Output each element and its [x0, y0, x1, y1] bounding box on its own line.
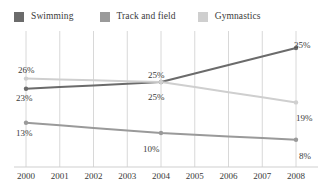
legend-swatch-track-and-field — [100, 12, 110, 22]
chart-legend: Swimming Track and field Gymnastics — [0, 8, 326, 26]
data-point-track-and-field-2008 — [294, 138, 298, 142]
x-tick-label-2004: 2004 — [152, 172, 170, 181]
legend-swatch-gymnastics — [198, 12, 208, 22]
data-point-gymnastics-2004 — [159, 80, 163, 84]
x-axis: 200020012002200320042005200620072008 — [0, 172, 326, 188]
x-tick-label-2005: 2005 — [186, 172, 204, 181]
x-tick-label-2008: 2008 — [287, 172, 305, 181]
x-tick-label-2006: 2006 — [220, 172, 238, 181]
legend-swatch-swimming — [14, 12, 24, 22]
legend-item-track-and-field[interactable]: Track and field — [100, 12, 176, 22]
label-swimming-2000: 23% — [16, 94, 33, 103]
x-tick-label-2007: 2007 — [253, 172, 271, 181]
legend-label-swimming: Swimming — [31, 12, 74, 22]
label-gymnastics-2000: 26% — [18, 66, 35, 75]
x-tick-label-2000: 2000 — [17, 172, 35, 181]
label-track-and-field-2000: 13% — [16, 129, 33, 138]
legend-item-swimming[interactable]: Swimming — [14, 12, 74, 22]
legend-label-track-and-field: Track and field — [117, 12, 176, 22]
line-chart: Swimming Track and field Gymnastics 26% … — [0, 0, 326, 196]
data-point-gymnastics-2000 — [24, 76, 28, 80]
data-point-track-and-field-2000 — [24, 121, 28, 125]
plot-area: 26% 23% 13% 25% 25% 10% 35% 19% 8% — [0, 28, 326, 170]
legend-item-gymnastics[interactable]: Gymnastics — [198, 12, 261, 22]
data-point-track-and-field-2004 — [159, 131, 163, 135]
data-point-swimming-2000 — [24, 87, 28, 91]
x-tick-label-2003: 2003 — [118, 172, 136, 181]
x-tick-label-2001: 2001 — [51, 172, 69, 181]
legend-label-gymnastics: Gymnastics — [215, 12, 261, 22]
data-point-gymnastics-2008 — [294, 100, 298, 104]
label-swimming-2004: 25% — [148, 71, 165, 80]
label-gymnastics-2008: 19% — [296, 114, 313, 123]
label-track-and-field-2004: 10% — [143, 145, 160, 154]
x-tick-label-2002: 2002 — [85, 172, 103, 181]
label-gymnastics-2004: 25% — [148, 93, 165, 102]
label-track-and-field-2008: 8% — [299, 152, 311, 161]
label-swimming-2008: 35% — [294, 41, 311, 50]
